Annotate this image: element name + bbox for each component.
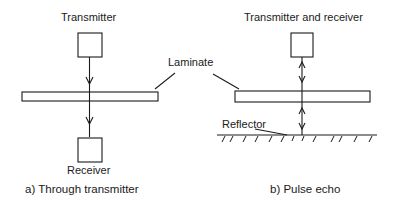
caption-b: b) Pulse echo [270, 183, 340, 195]
transmitter-box [78, 33, 102, 57]
transmitter-label: Transmitter [61, 11, 116, 23]
laminate-leader-left [155, 73, 175, 89]
transceiver-box [291, 33, 313, 57]
caption-a: a) Through transmitter [25, 183, 139, 195]
laminate-label: Laminate [168, 56, 213, 68]
transmitter-and-receiver-label: Transmitter and receiver [244, 11, 363, 23]
ultrasonic-inspection-diagram [0, 0, 398, 210]
reflector-hatching [222, 136, 372, 142]
receiver-label: Receiver [67, 164, 110, 176]
laminate-leader-right [213, 74, 239, 89]
reflector-label: Reflector [222, 118, 266, 130]
receiver-box [78, 138, 102, 162]
